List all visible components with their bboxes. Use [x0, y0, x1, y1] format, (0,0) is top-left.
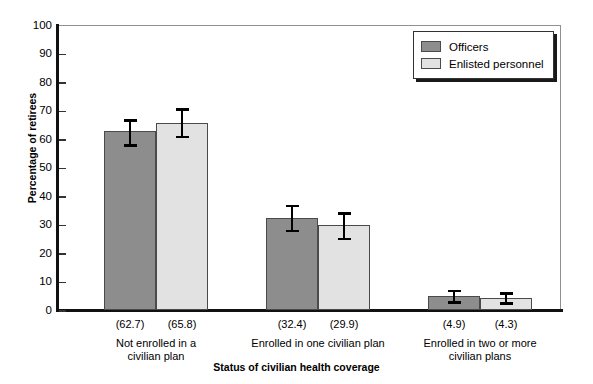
errorbar-cap-top-officers-group2	[286, 205, 299, 208]
legend-entry-officers: Officers	[421, 38, 544, 55]
value-label-officers-group3: (4.9)	[424, 318, 484, 330]
category-label-group2: Enrolled in one civilian plan	[228, 337, 408, 350]
category-label-group2-line1: Enrolled in one civilian plan	[228, 337, 408, 350]
value-label-officers-group2: (32.4)	[262, 318, 322, 330]
bar-chart-figure: 0 10 20 30 40 50 60 70 80 90 100 Percent…	[0, 0, 593, 384]
errorbar-cap-top-officers-group3	[448, 290, 461, 293]
errorbar-stem-enlisted-group1	[181, 108, 184, 135]
y-tick-label-0: 0	[22, 305, 52, 317]
value-label-enlisted-group3: (4.3)	[476, 318, 536, 330]
category-label-group1-line1: Not enrolled in a	[76, 337, 236, 350]
y-tick-20	[59, 253, 66, 255]
errorbar-stem-officers-group1	[129, 119, 132, 144]
y-tick-40	[59, 196, 66, 198]
y-tick-90	[59, 54, 66, 56]
errorbar-cap-bottom-enlisted-group2	[338, 238, 351, 241]
legend-label-enlisted: Enlisted personnel	[449, 58, 544, 70]
errorbar-cap-top-enlisted-group2	[338, 212, 351, 215]
y-tick-label-100: 100	[22, 20, 52, 32]
y-tick-0	[59, 310, 66, 312]
legend-label-officers: Officers	[449, 41, 488, 53]
y-tick-label-20: 20	[22, 248, 52, 260]
y-tick-30	[59, 225, 66, 227]
category-label-group1: Not enrolled in a civilian plan	[76, 337, 236, 363]
y-tick-80	[59, 82, 66, 84]
legend-swatch-enlisted-icon	[421, 58, 441, 69]
legend-swatch-officers-icon	[421, 41, 441, 52]
legend: Officers Enlisted personnel	[413, 31, 554, 79]
errorbar-cap-bottom-officers-group3	[448, 301, 461, 304]
bar-officers-group1	[104, 131, 156, 310]
value-label-enlisted-group2: (29.9)	[314, 318, 374, 330]
y-tick-70	[59, 111, 66, 113]
category-label-group3: Enrolled in two or more civilian plans	[400, 337, 560, 363]
errorbar-cap-top-enlisted-group3	[500, 292, 513, 295]
category-label-group3-line1: Enrolled in two or more	[400, 337, 560, 350]
y-tick-label-10: 10	[22, 276, 52, 288]
errorbar-stem-officers-group2	[291, 205, 294, 230]
value-label-officers-group1: (62.7)	[100, 318, 160, 330]
legend-entry-enlisted: Enlisted personnel	[421, 55, 544, 72]
errorbar-stem-enlisted-group2	[343, 212, 346, 238]
errorbar-cap-bottom-officers-group1	[124, 144, 137, 147]
y-tick-60	[59, 139, 66, 141]
y-axis-title: Percentage of retirees	[26, 68, 38, 228]
errorbar-cap-bottom-enlisted-group3	[500, 302, 513, 305]
errorbar-cap-bottom-officers-group2	[286, 230, 299, 233]
errorbar-cap-top-enlisted-group1	[176, 108, 189, 111]
bar-enlisted-group1	[156, 123, 208, 311]
y-tick-10	[59, 282, 66, 284]
x-axis-title: Status of civilian health coverage	[0, 361, 593, 373]
errorbar-cap-top-officers-group1	[124, 119, 137, 122]
errorbar-cap-bottom-enlisted-group1	[176, 136, 189, 139]
y-tick-label-90: 90	[22, 48, 52, 60]
y-tick-50	[59, 168, 66, 170]
value-label-enlisted-group1: (65.8)	[152, 318, 212, 330]
